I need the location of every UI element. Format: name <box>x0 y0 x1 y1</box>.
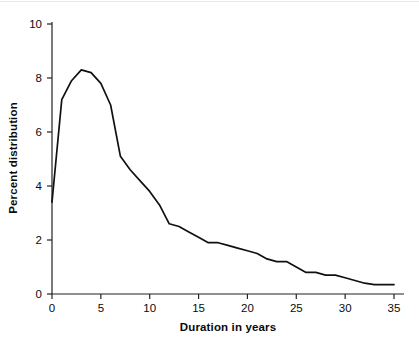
x-tick-label: 10 <box>143 302 156 314</box>
x-tick-label: 25 <box>290 302 303 314</box>
line-chart: 0246810 05101520253035 Duration in years… <box>0 0 419 344</box>
y-tick-label: 2 <box>36 234 42 246</box>
x-axis-ticks: 05101520253035 <box>49 294 401 314</box>
y-tick-label: 10 <box>29 18 42 30</box>
top-divider <box>0 1 419 2</box>
y-tick-label: 0 <box>36 288 42 300</box>
y-axis-title: Percent distribution <box>7 102 19 214</box>
x-tick-label: 0 <box>49 302 55 314</box>
x-axis-title: Duration in years <box>180 321 277 333</box>
x-tick-label: 15 <box>192 302 205 314</box>
x-tick-label: 20 <box>241 302 254 314</box>
y-tick-label: 4 <box>36 180 43 192</box>
chart-figure: 0246810 05101520253035 Duration in years… <box>0 0 419 344</box>
x-tick-label: 35 <box>388 302 401 314</box>
x-tick-label: 5 <box>98 302 104 314</box>
data-series-line <box>52 70 394 285</box>
y-axis-ticks: 0246810 <box>29 18 52 300</box>
y-tick-label: 8 <box>36 72 42 84</box>
x-tick-label: 30 <box>339 302 352 314</box>
y-tick-label: 6 <box>36 126 42 138</box>
